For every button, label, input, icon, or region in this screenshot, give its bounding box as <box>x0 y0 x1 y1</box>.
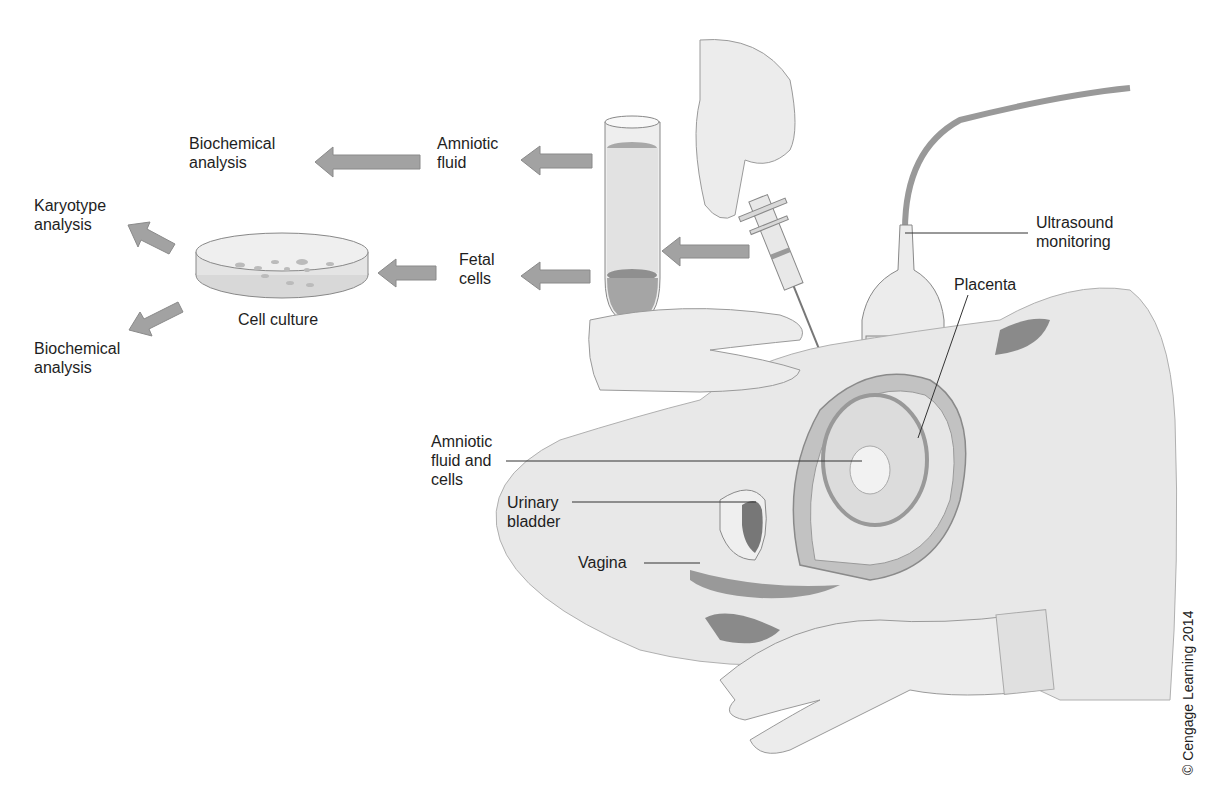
label-vagina: Vagina <box>578 553 627 572</box>
arrow-tube-to-fluid <box>521 146 592 175</box>
label-fetal-cells: Fetal cells <box>459 250 495 288</box>
copyright-notice: © Cengage Learning 2014 <box>1180 611 1196 775</box>
label-karyotype-analysis: Karyotype analysis <box>34 196 106 234</box>
label-ultrasound-monitoring: Ultrasound monitoring <box>1036 213 1113 251</box>
arrow-culture-to-biochemical <box>129 302 183 336</box>
label-cell-culture: Cell culture <box>238 310 318 329</box>
label-biochemical-analysis-top: Biochemical analysis <box>189 134 275 172</box>
amniocentesis-illustration <box>0 0 1213 799</box>
petri-dish-icon <box>196 233 368 298</box>
label-amniotic-fluid: Amniotic fluid <box>437 134 498 172</box>
arrow-syringe-to-tube <box>662 237 749 266</box>
label-biochemical-analysis-bottom: Biochemical analysis <box>34 339 120 377</box>
middle-hand-illustration <box>589 309 803 392</box>
arrow-tube-to-fetal-cells <box>521 262 590 290</box>
arrow-culture-to-karyotype <box>128 222 175 254</box>
label-urinary-bladder: Urinary bladder <box>507 493 560 531</box>
arrow-cells-to-culture <box>378 259 436 287</box>
arrow-fluid-to-biochemical <box>315 147 420 177</box>
label-placenta: Placenta <box>954 275 1016 294</box>
label-amniotic-fluid-and-cells: Amniotic fluid and cells <box>431 432 492 489</box>
test-tube-icon <box>605 116 660 322</box>
